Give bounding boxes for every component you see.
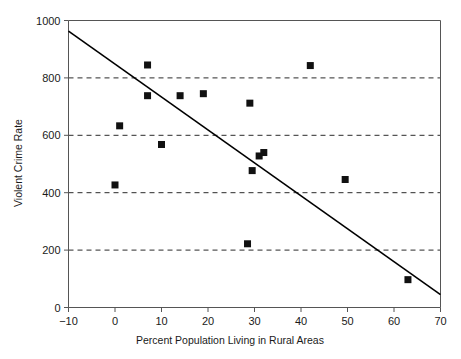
x-tick-label-7: 60 (388, 315, 400, 327)
y-axis-title: Violent Crime Rate (12, 119, 24, 207)
data-point (246, 100, 253, 107)
x-tick-label-5: 40 (295, 315, 307, 327)
y-tick-label-1: 200 (42, 244, 60, 256)
x-axis-title: Percent Population Living in Rural Areas (136, 334, 324, 346)
data-point (158, 141, 165, 148)
x-tick-label-4: 30 (248, 315, 260, 327)
y-tick-label-3: 600 (42, 129, 60, 141)
figure-background (0, 0, 461, 359)
data-point (244, 240, 251, 247)
y-tick-label-5: 1000 (36, 15, 60, 27)
data-point (144, 92, 151, 99)
x-tick-label-8: 70 (434, 315, 446, 327)
data-point (112, 181, 119, 188)
data-point (404, 276, 411, 283)
y-tick-label-0: 0 (54, 302, 60, 314)
data-point (342, 176, 349, 183)
data-point (177, 92, 184, 99)
x-tick-label-2: 10 (155, 315, 167, 327)
scatter-plot-figure: −10010203040506070 02004006008001000 Per… (0, 0, 461, 359)
y-tick-label-4: 800 (42, 72, 60, 84)
data-point (144, 61, 151, 68)
data-point (116, 122, 123, 129)
x-tick-label-1: 0 (112, 315, 118, 327)
x-tick-label-3: 20 (202, 315, 214, 327)
y-tick-label-2: 400 (42, 187, 60, 199)
data-point (307, 62, 314, 69)
chart-canvas: −10010203040506070 02004006008001000 Per… (0, 0, 461, 359)
data-point (260, 149, 267, 156)
x-tick-label-0: −10 (59, 315, 78, 327)
data-point (200, 90, 207, 97)
data-point (249, 167, 256, 174)
x-tick-label-6: 50 (341, 315, 353, 327)
